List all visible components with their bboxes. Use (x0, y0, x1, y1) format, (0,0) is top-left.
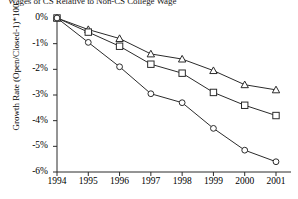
series-marker-square (116, 43, 122, 49)
series-marker-square (148, 61, 154, 67)
series-marker-circle (211, 125, 217, 131)
series-marker-circle (148, 91, 154, 97)
series-marker-circle (179, 100, 185, 106)
chart-plot-area (0, 0, 298, 199)
series-marker-square (85, 29, 91, 35)
series-marker-circle (85, 39, 91, 45)
series-marker-square (210, 89, 216, 95)
chart-series-group (53, 14, 279, 164)
series-marker-triangle (147, 50, 154, 57)
series-marker-circle (242, 147, 248, 153)
series-marker-square (242, 102, 248, 108)
series-marker-circle (273, 159, 279, 165)
series-marker-square (273, 112, 279, 118)
series-marker-triangle (241, 81, 248, 88)
series-marker-square (179, 70, 185, 76)
chart-series-triangle (53, 14, 279, 92)
chart-series-circle (54, 15, 279, 165)
chart-series-square (54, 15, 279, 119)
series-marker-triangle (210, 67, 217, 74)
series-marker-circle (117, 64, 123, 70)
series-marker-circle (54, 15, 60, 21)
chart-figure: Wages of CS Relative to Non-CS College W… (0, 0, 298, 199)
